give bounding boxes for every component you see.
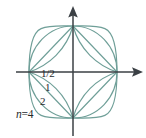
curve-label-n-one: 1	[45, 82, 50, 93]
curve-label-n-half: 1/2	[41, 68, 54, 79]
curve-label-n-four-value: =4	[22, 108, 34, 120]
curve-label-n-two: 2	[40, 96, 45, 107]
curve-label-n-four: n=4	[16, 109, 33, 121]
superellipse-figure: 1/2 1 2 n=4	[0, 0, 146, 138]
